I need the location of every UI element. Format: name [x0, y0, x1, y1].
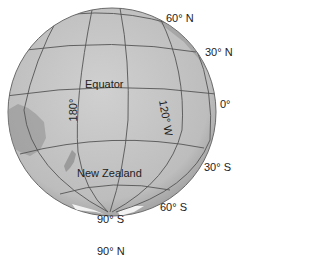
latitude-label-90s: 90° S — [97, 213, 124, 225]
new-zealand-label: New Zealand — [77, 167, 142, 179]
longitude-label-180: 180° — [67, 99, 79, 122]
latitude-label-30n: 30° N — [205, 46, 233, 58]
equator-label: Equator — [85, 78, 124, 90]
latitude-label-30s: 30° S — [204, 161, 231, 173]
latitude-label-0: 0° — [220, 98, 231, 110]
latitude-label-90n: 90° N — [97, 245, 125, 256]
latitude-label-60s: 60° S — [160, 201, 187, 213]
latitude-label-60n: 60° N — [166, 12, 194, 24]
